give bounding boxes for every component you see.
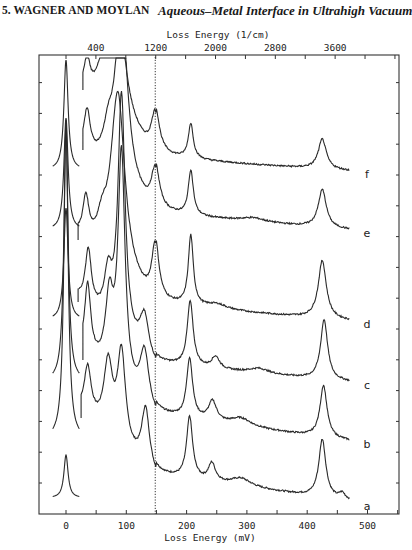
x-tick-label: 0 [63,520,69,531]
bottom-axis-ticks: 0100200300400500 [63,510,398,531]
trace-label-a: a [364,500,371,513]
trace-label-d: d [364,318,371,331]
x-tick-label: 100 [118,520,135,531]
x-tick-label: 500 [359,520,376,531]
elastic-peak-b [53,120,80,429]
trace-label-c: c [364,379,370,392]
bottom-axis-label: Loss Energy (mV) [164,532,256,543]
elastic-peak-f [53,60,80,166]
loss-spectrum-c [78,91,349,381]
x2-tick-label: 3600 [324,42,347,53]
elastic-peak-d [53,208,80,316]
trace-labels: abcdef [364,168,371,513]
elastic-peak-c [53,128,80,373]
x-tick-label: 200 [178,520,195,531]
top-axis-label: Loss Energy (1/cm) [167,29,270,40]
spectra-traces [53,58,350,499]
trace-label-b: b [364,438,371,451]
x-tick-label: 400 [299,520,316,531]
x2-tick-label: 1200 [144,42,167,53]
trace-label-f: f [365,168,370,181]
x2-tick-label: 2000 [204,42,227,53]
x2-tick-label: 2800 [264,42,287,53]
elastic-peak-a [53,455,80,497]
x-tick-label: 300 [238,520,255,531]
loss-spectrum-b [83,145,350,440]
loss-spectrum-a [81,344,349,498]
x2-tick-label: 400 [87,42,104,53]
eels-spectra-chart: Loss Energy (1/cm) 4001200200028003600 0… [0,0,412,550]
trace-label-e: e [364,227,371,240]
top-axis-ticks: 4001200200028003600 [66,42,395,59]
